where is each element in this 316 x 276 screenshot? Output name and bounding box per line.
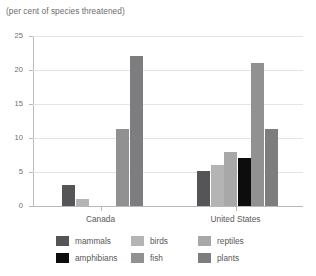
x-tick-mark bbox=[236, 207, 237, 211]
bar-plants bbox=[265, 129, 278, 206]
legend-label-plants: plants bbox=[217, 253, 239, 263]
chart-legend: mammalsbirdsreptilesamphibiansfishplants bbox=[56, 232, 296, 266]
legend-item-reptiles[interactable]: reptiles bbox=[198, 236, 268, 246]
bar-group bbox=[62, 36, 143, 206]
legend-label-birds: birds bbox=[150, 236, 168, 246]
bar-plants bbox=[130, 56, 143, 206]
legend-label-mammals: mammals bbox=[75, 236, 111, 246]
y-tick-label: 15 bbox=[1, 99, 23, 108]
y-tick-label: 25 bbox=[1, 31, 23, 40]
legend-swatch-birds bbox=[131, 236, 144, 246]
bar-amphibians bbox=[238, 158, 251, 206]
legend-swatch-fish bbox=[131, 253, 144, 263]
bar-fish bbox=[251, 63, 264, 206]
y-tick-mark bbox=[29, 206, 33, 207]
legend-row: mammalsbirdsreptiles bbox=[56, 232, 296, 249]
legend-item-birds[interactable]: birds bbox=[131, 236, 198, 246]
bar-fish bbox=[116, 129, 129, 206]
legend-item-amphibians[interactable]: amphibians bbox=[56, 253, 131, 263]
legend-item-mammals[interactable]: mammals bbox=[56, 236, 131, 246]
y-tick-label: 5 bbox=[1, 167, 23, 176]
chart-title: (per cent of species threatened) bbox=[6, 6, 125, 16]
legend-row: amphibiansfishplants bbox=[56, 249, 296, 266]
legend-item-fish[interactable]: fish bbox=[131, 253, 198, 263]
legend-swatch-plants bbox=[198, 253, 211, 263]
x-axis-label-canada: Canada bbox=[33, 214, 168, 224]
y-tick-label: 0 bbox=[1, 201, 23, 210]
bar-mammals bbox=[197, 171, 210, 206]
bar-mammals bbox=[62, 185, 75, 206]
legend-label-amphibians: amphibians bbox=[75, 253, 117, 263]
x-axis-label-united-states: United States bbox=[168, 214, 303, 224]
plot-area bbox=[33, 36, 303, 206]
y-tick-label: 20 bbox=[1, 65, 23, 74]
legend-item-plants[interactable]: plants bbox=[198, 253, 268, 263]
bar-birds bbox=[76, 199, 89, 206]
legend-swatch-mammals bbox=[56, 236, 69, 246]
y-tick-label: 10 bbox=[1, 133, 23, 142]
bar-reptiles bbox=[224, 152, 237, 206]
legend-swatch-reptiles bbox=[198, 236, 211, 246]
bar-group bbox=[197, 36, 278, 206]
bar-birds bbox=[211, 165, 224, 206]
legend-label-fish: fish bbox=[150, 253, 163, 263]
x-tick-mark bbox=[101, 207, 102, 211]
legend-swatch-amphibians bbox=[56, 253, 69, 263]
x-axis-line bbox=[33, 206, 303, 207]
legend-label-reptiles: reptiles bbox=[217, 236, 244, 246]
threatened-species-bar-chart: (per cent of species threatened) 0510152… bbox=[0, 0, 316, 276]
